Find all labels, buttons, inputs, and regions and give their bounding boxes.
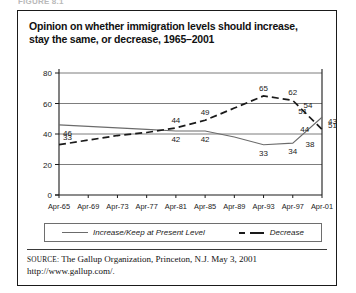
legend-item-increase: Increase/Keep at Present Level — [62, 228, 205, 237]
svg-text:Apr-89: Apr-89 — [223, 202, 245, 211]
solid-line-swatch-icon — [62, 232, 88, 233]
dashed-line-swatch-icon — [239, 231, 265, 234]
source-keyword: SOURCE: — [27, 255, 59, 264]
svg-text:54: 54 — [304, 101, 313, 110]
svg-text:40: 40 — [43, 130, 52, 139]
svg-text:44: 44 — [300, 125, 309, 134]
svg-text:65: 65 — [259, 84, 268, 93]
cut-off-figure-caption: FIGURE 8.1 — [18, 0, 138, 8]
source-divider — [27, 249, 327, 250]
page-title: Opinion on whether immigration levels sh… — [29, 20, 319, 46]
svg-text:38: 38 — [306, 140, 315, 149]
axes — [55, 69, 322, 198]
svg-text:Apr-77: Apr-77 — [136, 202, 158, 211]
svg-text:42: 42 — [171, 135, 180, 144]
source-text: The Gallup Organization, Princeton, N.J.… — [59, 254, 257, 264]
legend-label-decrease: Decrease — [270, 228, 304, 237]
svg-text:34: 34 — [288, 147, 297, 156]
svg-text:44: 44 — [171, 116, 180, 125]
data-point-labels: 46424233345133444965624351544438 — [63, 84, 336, 158]
svg-text:49: 49 — [201, 108, 210, 117]
x-tick-labels: Apr-65Apr-69Apr-73Apr-77Apr-81Apr-85Apr-… — [48, 202, 333, 211]
legend-label-increase: Increase/Keep at Present Level — [93, 228, 205, 237]
svg-text:60: 60 — [43, 100, 52, 109]
svg-text:33: 33 — [259, 149, 268, 158]
svg-text:43: 43 — [328, 117, 336, 126]
source-note: SOURCE: The Gallup Organization, Princet… — [27, 254, 327, 277]
y-tick-labels: 020406080 — [43, 69, 52, 200]
svg-text:Apr-73: Apr-73 — [106, 202, 128, 211]
gridlines — [59, 73, 322, 165]
chart-legend: Increase/Keep at Present Level Decrease — [44, 223, 322, 242]
legend-item-decrease: Decrease — [239, 228, 304, 237]
source-url: http://www.gallup.com/. — [27, 266, 115, 276]
svg-text:Apr-01: Apr-01 — [311, 202, 333, 211]
svg-text:Apr-85: Apr-85 — [194, 202, 216, 211]
line-chart-svg: 020406080 Apr-65Apr-69Apr-73Apr-77Apr-81… — [18, 54, 336, 214]
svg-text:Apr-81: Apr-81 — [165, 202, 187, 211]
svg-text:33: 33 — [63, 133, 72, 142]
svg-text:20: 20 — [43, 161, 52, 170]
svg-text:Apr-93: Apr-93 — [252, 202, 274, 211]
svg-text:0: 0 — [48, 191, 53, 200]
svg-text:80: 80 — [43, 69, 52, 78]
chart-plot-area: 020406080 Apr-65Apr-69Apr-73Apr-77Apr-81… — [18, 54, 336, 214]
figure-page: FIGURE 8.1 Opinion on whether immigratio… — [0, 0, 356, 293]
svg-text:42: 42 — [201, 135, 210, 144]
figure-frame: Opinion on whether immigration levels sh… — [17, 10, 337, 286]
svg-text:Apr-97: Apr-97 — [282, 202, 304, 211]
svg-text:Apr-69: Apr-69 — [77, 202, 99, 211]
svg-text:Apr-65: Apr-65 — [48, 202, 70, 211]
svg-text:62: 62 — [288, 88, 297, 97]
